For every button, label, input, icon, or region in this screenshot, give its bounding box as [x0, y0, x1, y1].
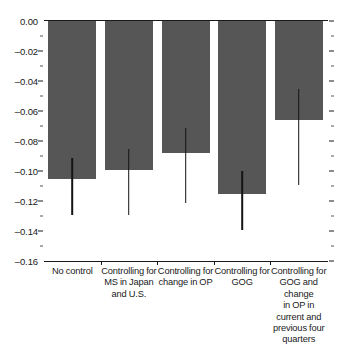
y-axis-minor-tick-right — [331, 96, 334, 97]
x-axis-label-line: and U.S. — [97, 289, 162, 300]
x-axis-tick — [214, 261, 215, 265]
x-axis-labels: No controlControlling forMS in Japanand … — [44, 266, 327, 364]
x-axis-label-line: previous four — [266, 323, 331, 334]
y-axis-minor-tick — [40, 96, 43, 97]
y-axis-minor-tick — [40, 36, 43, 37]
bar — [105, 21, 153, 170]
x-axis-category-label: No control — [40, 266, 105, 277]
y-axis-major-tick-right — [329, 261, 334, 262]
y-axis-major-tick-right — [329, 141, 334, 142]
bottom-axis-line — [44, 261, 328, 262]
x-axis-label-line: in OP in — [266, 300, 331, 311]
error-bar — [298, 89, 300, 185]
y-axis-minor-tick — [40, 156, 43, 157]
y-axis-major-tick — [38, 111, 43, 112]
error-bar — [71, 158, 73, 215]
y-axis-minor-tick-right — [331, 36, 334, 37]
y-axis-major-tick-right — [329, 201, 334, 202]
y-axis-major-tick-right — [329, 111, 334, 112]
y-axis-tick-label: –0.10 — [15, 166, 38, 177]
y-axis-major-tick — [38, 141, 43, 142]
y-axis-minor-tick-right — [331, 156, 334, 157]
x-axis-label-line: quarters — [266, 334, 331, 345]
x-axis-label-line: GOG and — [266, 277, 331, 288]
x-axis-tick — [270, 261, 271, 265]
y-axis-minor-tick-right — [331, 246, 334, 247]
y-axis-minor-tick-right — [331, 216, 334, 217]
x-axis-label-line: Controlling for — [210, 266, 275, 277]
y-axis-minor-tick-right — [331, 186, 334, 187]
y-axis-tick-label: –0.12 — [15, 196, 38, 207]
y-axis-minor-tick — [40, 186, 43, 187]
y-axis-major-tick-right — [329, 231, 334, 232]
y-axis-labels: 0.00–0.02–0.04–0.06–0.08–0.10–0.12–0.14–… — [0, 0, 38, 364]
bar — [48, 21, 96, 179]
y-axis-major-tick-right — [329, 171, 334, 172]
x-axis-category-label: Controlling forGOG — [210, 266, 275, 289]
y-axis-tick-label: –0.16 — [15, 256, 38, 267]
x-axis-label-line: Controlling for — [266, 266, 331, 277]
y-axis-minor-tick — [40, 66, 43, 67]
x-axis-label-line: No control — [40, 266, 105, 277]
y-axis-major-tick — [38, 201, 43, 202]
y-axis-major-tick-right — [329, 81, 334, 82]
bar-chart: 0.00–0.02–0.04–0.06–0.08–0.10–0.12–0.14–… — [0, 0, 351, 364]
y-axis-minor-tick — [40, 216, 43, 217]
error-bar — [185, 128, 187, 203]
y-axis-tick-label: –0.04 — [15, 76, 38, 87]
x-axis-category-label: Controlling forGOG andchangein OP incurr… — [266, 266, 331, 346]
y-axis-minor-tick — [40, 126, 43, 127]
y-axis-minor-tick-right — [331, 126, 334, 127]
error-bar — [241, 171, 243, 230]
x-axis-label-line: MS in Japan — [97, 277, 162, 288]
plot-area — [44, 21, 327, 261]
x-axis-tick — [157, 261, 158, 265]
x-axis-category-label: Controlling forchange in OP — [153, 266, 218, 289]
x-axis-label-line: GOG — [210, 277, 275, 288]
y-axis-minor-tick-right — [331, 66, 334, 67]
y-axis-minor-tick — [40, 246, 43, 247]
y-axis-major-tick — [38, 171, 43, 172]
x-axis-label-line: Controlling for — [97, 266, 162, 277]
y-axis-tick-label: 0.00 — [20, 16, 38, 27]
y-axis-tick-label: –0.02 — [15, 46, 38, 57]
y-axis-tick-label: –0.06 — [15, 106, 38, 117]
x-axis-label-line: Controlling for — [153, 266, 218, 277]
y-axis-tick-label: –0.14 — [15, 226, 38, 237]
x-axis-label-line: change — [266, 289, 331, 300]
y-axis-major-tick-right — [329, 21, 334, 22]
error-bar — [128, 149, 130, 215]
y-axis-major-tick — [38, 51, 43, 52]
x-axis-tick — [101, 261, 102, 265]
y-axis-major-tick — [38, 81, 43, 82]
bar — [218, 21, 266, 194]
y-axis-major-tick-right — [329, 51, 334, 52]
y-axis-tick-label: –0.08 — [15, 136, 38, 147]
x-axis-label-line: current and — [266, 312, 331, 323]
y-axis-major-tick — [38, 231, 43, 232]
x-axis-label-line: change in OP — [153, 277, 218, 288]
x-axis-category-label: Controlling forMS in Japanand U.S. — [97, 266, 162, 300]
